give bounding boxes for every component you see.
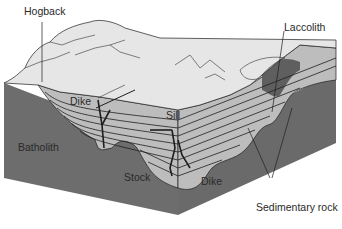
label-batholith: Batholith [18,142,59,153]
label-hogback: Hogback [24,6,65,17]
label-stock: Stock [124,172,150,183]
label-dike-right: Dike [201,176,222,187]
label-dike-left: Dike [70,96,91,107]
label-laccolith: Laccolith [284,22,325,33]
label-sedimentary-rock: Sedimentary rock [256,202,338,213]
label-sill: Sill [166,110,180,121]
